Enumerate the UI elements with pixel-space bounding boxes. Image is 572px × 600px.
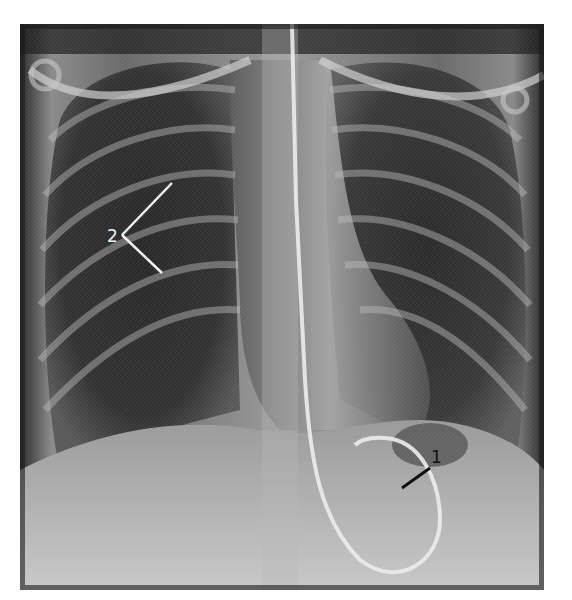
chest-xray-figure: 2 1: [0, 0, 572, 600]
xray-image: [20, 24, 544, 590]
annotation-label-1: 1: [431, 447, 442, 467]
annotation-label-2: 2: [107, 226, 118, 246]
